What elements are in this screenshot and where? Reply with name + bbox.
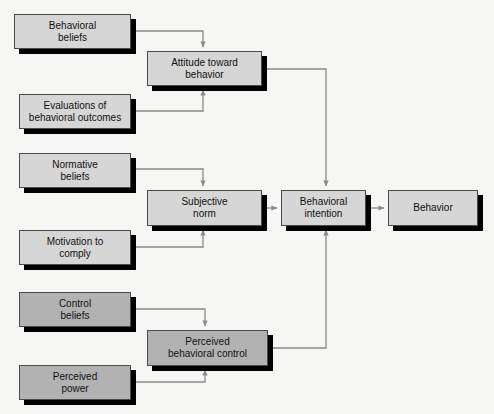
node-behavior: Behavior (388, 190, 478, 226)
edge-evaluations-to-attitude (131, 90, 203, 111)
node-behavioral-beliefs: Behavioral beliefs (14, 14, 131, 49)
edge-motivation-to-subjnorm (131, 230, 203, 247)
node-subjective-norm: Subjective norm (147, 190, 262, 226)
node-label: Evaluations of behavioral outcomes (25, 100, 125, 124)
node-label: Motivation to comply (43, 236, 108, 260)
edge-control_beliefs-to-pbc (131, 309, 205, 326)
node-control-beliefs: Control beliefs (19, 292, 131, 327)
edge-attitude-to-intention (262, 69, 326, 186)
node-label: Perceived power (49, 371, 101, 395)
node-evaluations-of-behavioral-outcomes: Evaluations of behavioral outcomes (19, 94, 131, 129)
node-normative-beliefs: Normative beliefs (19, 153, 131, 188)
node-perceived-power: Perceived power (19, 365, 131, 400)
node-label: Control beliefs (55, 298, 95, 322)
edge-behavioral_beliefs-to-attitude (131, 31, 203, 47)
node-label: Normative beliefs (48, 159, 102, 183)
node-label: Behavioral intention (296, 196, 351, 220)
node-label: Behavioral beliefs (45, 20, 100, 44)
node-behavioral-intention: Behavioral intention (281, 190, 366, 226)
node-label: Behavior (409, 202, 456, 214)
node-label: Attitude toward behavior (167, 57, 242, 81)
node-perceived-behavioral-control: Perceived behavioral control (147, 330, 268, 366)
edge-normative_beliefs-to-subjnorm (131, 169, 203, 186)
node-attitude-toward-behavior: Attitude toward behavior (147, 51, 262, 86)
edge-perceived_power-to-pbc (131, 370, 205, 382)
node-motivation-to-comply: Motivation to comply (19, 230, 131, 265)
edge-pbc-to-intention (268, 230, 326, 348)
node-label: Subjective norm (177, 196, 231, 220)
node-label: Perceived behavioral control (164, 336, 251, 360)
theory-of-planned-behavior-diagram: Behavioral beliefs Evaluations of behavi… (0, 0, 494, 414)
